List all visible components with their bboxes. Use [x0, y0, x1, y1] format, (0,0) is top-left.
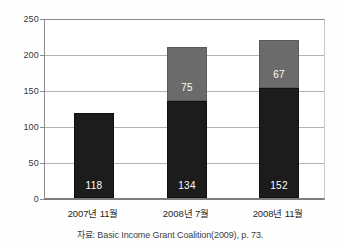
bar-label-upper: 67 — [260, 69, 298, 80]
x-tick-label-2008-11: 2008년 11월 — [218, 206, 338, 220]
y-tick-label-150: 150 — [5, 87, 39, 96]
bar-segment-lower[interactable]: 118 — [74, 113, 114, 198]
chart-figure: 250 200 150 100 50 0 118 75 134 — [0, 0, 340, 249]
bar-label-lower: 134 — [168, 180, 206, 191]
bar-group-2007-11[interactable]: 118 — [74, 113, 114, 198]
y-tick-label-100: 100 — [5, 123, 39, 132]
plot-area: 118 75 134 67 152 — [44, 19, 325, 200]
y-tick-label-0: 0 — [5, 195, 39, 204]
bar-group-2008-11[interactable]: 67 152 — [259, 40, 299, 198]
bar-label-lower: 152 — [260, 180, 298, 191]
bar-segment-lower[interactable]: 152 — [259, 88, 299, 198]
y-tick-label-250: 250 — [5, 15, 39, 24]
bar-segment-upper[interactable]: 75 — [167, 47, 207, 101]
source-caption: 자료: Basic Income Grant Coalition(2009), … — [0, 228, 340, 241]
bar-label-lower: 118 — [75, 180, 113, 191]
bar-group-2008-07[interactable]: 75 134 — [167, 47, 207, 198]
y-tick-label-50: 50 — [5, 159, 39, 168]
bar-segment-lower[interactable]: 134 — [167, 101, 207, 198]
bar-label-upper: 75 — [168, 82, 206, 93]
bar-segment-upper[interactable]: 67 — [259, 40, 299, 88]
y-tick-label-200: 200 — [5, 51, 39, 60]
